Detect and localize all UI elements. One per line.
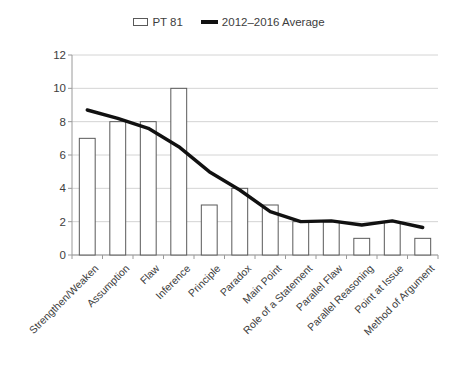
bar <box>415 238 431 255</box>
bar <box>201 205 217 255</box>
bar <box>323 222 339 255</box>
average-line <box>87 110 423 228</box>
bar <box>79 138 95 255</box>
gridlines <box>72 55 438 255</box>
chart-container: PT 81 2012–2016 Average 121086420 Streng… <box>0 0 458 378</box>
bar <box>110 122 126 255</box>
bar <box>354 238 370 255</box>
bar <box>140 122 156 255</box>
bar-series <box>79 88 430 255</box>
bar <box>384 222 400 255</box>
bar <box>171 88 187 255</box>
plot-svg <box>0 0 458 378</box>
bar <box>293 222 309 255</box>
bar <box>232 188 248 255</box>
plot-area <box>0 0 458 378</box>
